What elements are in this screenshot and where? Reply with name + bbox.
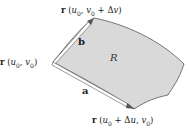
- vector-a-label: a: [82, 86, 88, 96]
- label-top-corner: r (u0, v0 + Δv): [61, 6, 122, 17]
- label-left-corner: r (u0, v0): [0, 58, 37, 69]
- vector-b-label: b: [78, 37, 85, 47]
- region-label: R: [110, 53, 118, 63]
- label-bottom-corner: r (u0 + Δu, v0): [92, 116, 153, 127]
- surface-region: [53, 18, 184, 109]
